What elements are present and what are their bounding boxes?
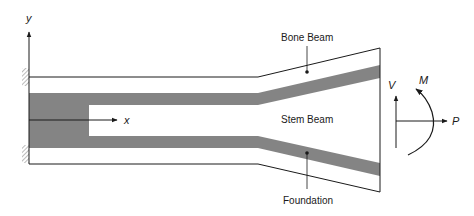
bone-beam-top-edge bbox=[29, 48, 380, 77]
bone-beam-label: Bone Beam bbox=[281, 32, 333, 43]
moment-label: M bbox=[419, 74, 429, 86]
x-axis-label: x bbox=[123, 114, 130, 126]
shear-force-label: V bbox=[388, 79, 397, 91]
stem-beam-label: Stem Beam bbox=[281, 114, 333, 125]
bone-beam-bottom-edge bbox=[29, 164, 380, 192]
y-axis-label: y bbox=[25, 12, 33, 24]
beam-diagram: y x Bone Beam Stem Beam Foundation V P M bbox=[0, 0, 474, 216]
foundation-marker bbox=[305, 151, 309, 155]
fixed-support-bottom-icon bbox=[22, 145, 29, 163]
moment-arrow-icon bbox=[408, 89, 434, 155]
foundation-label: Foundation bbox=[283, 195, 333, 206]
bone-beam-marker bbox=[305, 70, 309, 74]
fixed-support-top-icon bbox=[22, 68, 29, 86]
axial-force-label: P bbox=[452, 115, 460, 127]
